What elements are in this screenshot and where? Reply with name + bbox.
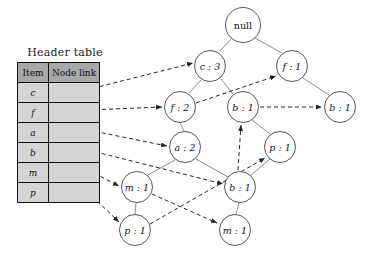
- header-row-f[interactable]: f: [18, 103, 100, 123]
- header-link-a[interactable]: [49, 123, 100, 143]
- tree-node-f1[interactable]: f : 1: [276, 50, 308, 82]
- tree-node-b1-middle-label: b : 1: [232, 102, 253, 113]
- edge-b1b-m1b: [236, 203, 239, 214]
- tree-node-b1-middle[interactable]: b : 1: [227, 91, 259, 123]
- header-row-c[interactable]: c: [18, 83, 100, 103]
- header-table-head-row: Item Node link: [18, 63, 100, 83]
- edge-m1l-p1b: [135, 203, 136, 214]
- edge-f1-b1r: [303, 78, 329, 95]
- tree-node-c3-label: c : 3: [200, 61, 221, 72]
- edge-a2-b1b: [196, 159, 228, 177]
- tree-node-a2[interactable]: a : 2: [169, 131, 201, 163]
- header-table: Item Node link c f a b m: [17, 62, 100, 203]
- tree-node-b1-right-label: b : 1: [329, 102, 350, 113]
- tree-node-f2-label: f : 2: [171, 102, 190, 113]
- tree-node-null-label: null: [234, 20, 252, 31]
- edge-f2-a2: [180, 123, 184, 131]
- column-header-node-link: Node link: [49, 63, 100, 83]
- header-item-a: a: [18, 123, 49, 143]
- header-item-c: c: [18, 83, 49, 103]
- edge-a2-m1l: [148, 160, 175, 175]
- tree-node-p1-right[interactable]: p : 1: [264, 131, 296, 163]
- header-link-p[interactable]: [49, 183, 100, 203]
- link-header-b-to-b1b: [88, 150, 223, 184]
- header-item-b: b: [18, 143, 49, 163]
- header-link-f[interactable]: [49, 103, 100, 123]
- tree-node-m1-bottom[interactable]: m : 1: [219, 214, 251, 246]
- header-item-p: p: [18, 183, 49, 203]
- edge-null-c3: [220, 38, 232, 51]
- tree-node-f1-label: f : 1: [283, 61, 302, 72]
- header-row-b[interactable]: b: [18, 143, 100, 163]
- header-item-m: m: [18, 163, 49, 183]
- link-m1l-to-m1b: [152, 194, 217, 223]
- link-b1b-to-b1m: [238, 125, 241, 170]
- header-item-f: f: [18, 103, 49, 123]
- header-row-p[interactable]: p: [18, 183, 100, 203]
- edge-c3-f2: [189, 80, 201, 93]
- header-row-a[interactable]: a: [18, 123, 100, 143]
- edge-c3-b1m: [221, 79, 233, 94]
- header-node-links: [86, 63, 223, 222]
- link-header-c-to-c3: [86, 63, 193, 90]
- tree-node-null[interactable]: null: [225, 7, 261, 43]
- tree-node-b1-bottom-label: b : 1: [229, 182, 250, 193]
- tree-node-m1-left[interactable]: m : 1: [121, 171, 153, 203]
- column-header-item: Item: [18, 63, 49, 83]
- fp-tree-diagram: Header table Item Node link c f a b: [0, 0, 369, 259]
- tree-node-b1-bottom[interactable]: b : 1: [224, 171, 256, 203]
- header-table-caption: Header table: [17, 46, 113, 59]
- header-link-c[interactable]: [49, 83, 100, 103]
- tree-node-m1-left-label: m : 1: [125, 182, 149, 193]
- header-link-b[interactable]: [49, 143, 100, 163]
- edge-b1m-p1r: [252, 120, 270, 134]
- edge-b1b-p1r: [250, 159, 270, 176]
- header-link-m[interactable]: [49, 163, 100, 183]
- edge-null-f1: [255, 38, 282, 53]
- tree-node-p1-bottom-label: p : 1: [124, 225, 145, 236]
- tree-node-b1-right[interactable]: b : 1: [324, 91, 356, 123]
- tree-node-p1-right-label: p : 1: [269, 142, 290, 153]
- header-row-m[interactable]: m: [18, 163, 100, 183]
- tree-node-p1-bottom[interactable]: p : 1: [119, 214, 151, 246]
- tree-node-a2-label: a : 2: [175, 142, 196, 153]
- tree-node-f2[interactable]: f : 2: [164, 91, 196, 123]
- tree-node-c3[interactable]: c : 3: [194, 50, 226, 82]
- tree-node-m1-bottom-label: m : 1: [223, 225, 247, 236]
